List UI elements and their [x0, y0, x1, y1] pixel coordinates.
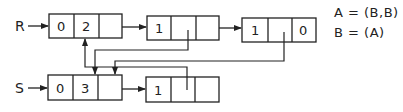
node-s2-cell-0: 1: [154, 83, 162, 98]
node-s1-cell-1: 3: [81, 81, 89, 96]
node-s1-cell-0: 0: [56, 81, 64, 96]
legend-b-definition: B = (A): [334, 25, 385, 40]
s2-sublist-pointer: [85, 39, 187, 90]
node-r2-cell-0: 1: [155, 21, 163, 36]
node-r1-cell-0: 0: [57, 19, 65, 34]
node-r1: 0 2: [49, 14, 122, 38]
node-r1-cell-1: 2: [82, 19, 90, 34]
node-r3-cell-0: 1: [251, 23, 259, 38]
r3-sublist-pointer: [115, 32, 284, 74]
pointer-label-r: R: [15, 18, 25, 34]
legend-a-definition: A = (B,B): [334, 5, 399, 20]
node-s2: 1: [146, 77, 219, 102]
pointer-label-s: S: [15, 80, 24, 96]
node-r2: 1: [147, 16, 219, 40]
node-r3: 1 0: [242, 18, 316, 42]
node-r3-cell-2: 0: [299, 23, 307, 38]
node-s1: 0 3: [48, 75, 122, 100]
